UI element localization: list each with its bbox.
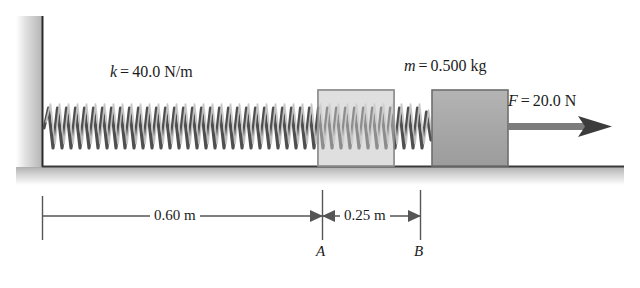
dimension-label-wall-to-a: 0.60 m <box>150 207 200 224</box>
spring-constant-label: k=40.0 N/m <box>110 64 193 80</box>
block-solid-at-b <box>432 90 508 166</box>
wall-shadow <box>16 16 42 168</box>
mass-symbol: m <box>404 57 416 74</box>
dimension-label-a-to-b: 0.25 m <box>340 207 390 224</box>
dim-arrowhead-a-left <box>322 210 335 222</box>
spring-constant-value: 40.0 N/m <box>132 63 192 80</box>
dim-arrowhead-a-right <box>310 210 323 222</box>
mass-value: 0.500 kg <box>431 57 487 74</box>
equals-sign-m: = <box>416 57 431 74</box>
point-label-b: B <box>414 243 423 260</box>
ground-shadow <box>16 167 624 185</box>
force-label: F=20.0 N <box>508 93 576 109</box>
point-label-a: A <box>316 243 325 260</box>
equals-sign-f: = <box>518 92 533 109</box>
force-value: 20.0 N <box>533 92 577 109</box>
physics-diagram: k=40.0 N/m m=0.500 kg F=20.0 N 0.60 m 0.… <box>0 0 640 288</box>
equals-sign-k: = <box>117 63 132 80</box>
dim-arrowhead-b-left <box>408 210 421 222</box>
mass-label: m=0.500 kg <box>404 58 487 74</box>
force-symbol: F <box>508 92 518 109</box>
block-ghost-overlay <box>318 90 394 166</box>
